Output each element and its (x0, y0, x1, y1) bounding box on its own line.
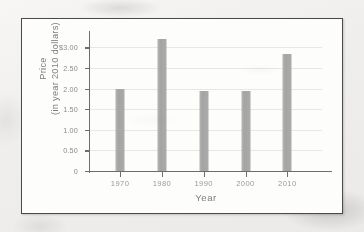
y-axis-tick-label: 1.50 (63, 105, 78, 114)
scanned-page: 00.501.001.502.002.50$3.00 1970198019902… (0, 0, 364, 232)
bar (241, 91, 250, 171)
y-axis-tick (85, 68, 90, 69)
y-axis-tick-label: 0 (74, 167, 78, 176)
x-axis-tick-label: 2010 (278, 179, 297, 188)
y-axis-tick (85, 109, 90, 110)
x-axis-tick-label: 1980 (153, 179, 172, 188)
x-axis-tick (120, 172, 121, 177)
x-axis-tick (246, 172, 247, 177)
y-axis-tick-label: 0.50 (63, 146, 78, 155)
y-axis-line (89, 31, 90, 173)
y-axis-tick (85, 150, 90, 151)
y-axis-tick-label: 2.50 (63, 64, 78, 73)
x-axis-title: Year (90, 192, 322, 203)
x-axis-tick-label: 1970 (111, 179, 130, 188)
bar (283, 54, 292, 171)
bar (157, 39, 166, 171)
y-axis-tick (85, 89, 90, 90)
y-axis-tick-label: $3.00 (59, 43, 78, 52)
x-axis-tick-label: 2000 (236, 179, 255, 188)
x-axis-tick (204, 172, 205, 177)
x-axis-tick (287, 172, 288, 177)
y-axis-tick-label: 2.00 (63, 85, 78, 94)
x-axis-tick-label: 1990 (194, 179, 213, 188)
x-axis-tick (162, 172, 163, 177)
y-axis-tick (85, 130, 90, 131)
bar (199, 91, 208, 171)
gridline (90, 47, 322, 48)
y-axis-tick (85, 47, 90, 48)
figure-frame: 00.501.001.502.002.50$3.00 1970198019902… (21, 18, 343, 214)
y-axis-title-line2: (in year 2010 dollars) (49, 9, 61, 129)
bar-chart-plot: 00.501.001.502.002.50$3.00 1970198019902… (22, 19, 342, 213)
bar (116, 89, 125, 171)
y-axis-tick (85, 171, 90, 172)
y-axis-title: Price (in year 2010 dollars) (38, 9, 61, 129)
y-axis-title-line1: Price (38, 9, 50, 129)
y-axis-tick-label: 1.00 (63, 126, 78, 135)
x-axis-line (89, 171, 332, 172)
